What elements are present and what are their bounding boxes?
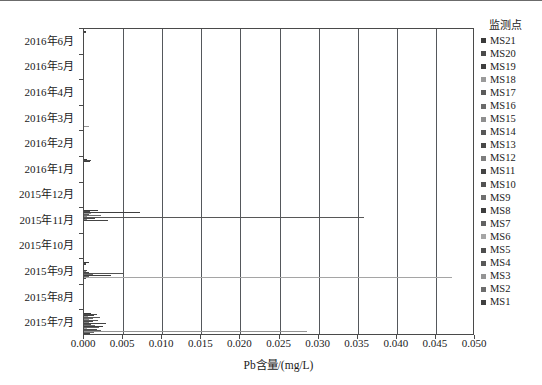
legend-swatch-icon (481, 90, 486, 95)
y-axis-tick-label: 2016年4月 (25, 86, 75, 98)
bar (84, 278, 86, 279)
bar (84, 217, 364, 218)
legend-item-label: MS2 (490, 283, 510, 295)
legend-swatch-icon (481, 261, 486, 266)
legend-swatch-icon (481, 117, 486, 122)
legend-item-label: MS20 (490, 48, 516, 60)
legend-item[interactable]: MS4 (481, 257, 541, 270)
y-axis-tick-label: 2016年5月 (25, 60, 75, 72)
legend-item[interactable]: MS17 (481, 86, 541, 99)
bar (84, 333, 90, 334)
legend-swatch-icon (481, 130, 486, 135)
legend-item-label: MS1 (490, 296, 510, 308)
y-axis-tick-label: 2016年6月 (25, 35, 75, 47)
gridline (201, 29, 202, 334)
y-axis-tick-label: 2016年2月 (25, 137, 75, 149)
gridline (397, 29, 398, 334)
legend-item-label: MS9 (490, 192, 510, 204)
legend-item[interactable]: MS7 (481, 217, 541, 230)
legend-item[interactable]: MS1 (481, 296, 541, 309)
legend-items: MS21MS20MS19MS18MS17MS16MS15MS14MS13MS12… (481, 34, 541, 309)
legend-item-label: MS5 (490, 244, 510, 256)
bar (84, 264, 86, 265)
legend-swatch-icon (481, 38, 486, 43)
bar (84, 220, 108, 221)
y-axis-tick-label: 2015年12月 (19, 188, 74, 200)
y-axis: 2016年6月2016年5月2016年4月2016年3月2016年2月2016年… (0, 28, 79, 335)
x-axis-tick (396, 335, 397, 339)
legend-swatch-icon (481, 248, 486, 253)
gridline (358, 29, 359, 334)
legend-item-label: MS7 (490, 218, 510, 230)
y-axis-tick-label: 2016年1月 (25, 163, 75, 175)
legend-item-label: MS3 (490, 270, 510, 282)
legend-swatch-icon (481, 156, 486, 161)
legend-item[interactable]: MS13 (481, 139, 541, 152)
legend: 监测点 MS21MS20MS19MS18MS17MS16MS15MS14MS13… (481, 19, 541, 309)
legend-item[interactable]: MS10 (481, 178, 541, 191)
legend-item[interactable]: MS12 (481, 152, 541, 165)
legend-item[interactable]: MS19 (481, 60, 541, 73)
legend-title: 监测点 (489, 19, 541, 32)
bar (84, 32, 86, 33)
legend-item[interactable]: MS21 (481, 34, 541, 47)
bar (84, 277, 452, 278)
legend-item[interactable]: MS8 (481, 204, 541, 217)
x-axis-tick (279, 335, 280, 339)
y-axis-tick-label: 2015年9月 (25, 265, 75, 277)
bar (84, 161, 90, 162)
legend-item[interactable]: MS20 (481, 47, 541, 60)
x-axis-tick (357, 335, 358, 339)
legend-item[interactable]: MS2 (481, 283, 541, 296)
y-axis-tick-label: 2016年3月 (25, 112, 75, 124)
legend-item[interactable]: MS9 (481, 191, 541, 204)
legend-swatch-icon (481, 77, 486, 82)
x-axis-tick (318, 335, 319, 339)
x-axis-tick (200, 335, 201, 339)
legend-item[interactable]: MS16 (481, 99, 541, 112)
legend-item-label: MS12 (490, 152, 516, 164)
legend-item[interactable]: MS14 (481, 126, 541, 139)
bar (84, 212, 140, 213)
chart-figure: 2016年6月2016年5月2016年4月2016年3月2016年2月2016年… (0, 0, 542, 385)
gridline (280, 29, 281, 334)
legend-swatch-icon (481, 195, 486, 200)
gridline (319, 29, 320, 334)
legend-item[interactable]: MS11 (481, 165, 541, 178)
legend-swatch-icon (481, 143, 486, 148)
legend-item[interactable]: MS3 (481, 270, 541, 283)
legend-item-label: MS14 (490, 126, 516, 138)
legend-swatch-icon (481, 104, 486, 109)
legend-item[interactable]: MS5 (481, 244, 541, 257)
y-axis-tick-label: 2015年11月 (19, 214, 74, 226)
bar (84, 331, 307, 332)
legend-item-label: MS19 (490, 61, 516, 73)
gridline (436, 29, 437, 334)
legend-item-label: MS21 (490, 35, 516, 47)
legend-item-label: MS17 (490, 87, 516, 99)
y-axis-tick-label: 2015年10月 (19, 239, 74, 251)
legend-item-label: MS8 (490, 205, 510, 217)
legend-swatch-icon (481, 287, 486, 292)
gridline (123, 29, 124, 334)
legend-swatch-icon (481, 221, 486, 226)
legend-swatch-icon (481, 300, 486, 305)
legend-item-label: MS4 (490, 257, 510, 269)
legend-swatch-icon (481, 51, 486, 56)
legend-item-label: MS13 (490, 139, 516, 151)
legend-item-label: MS10 (490, 179, 516, 191)
legend-swatch-icon (481, 64, 486, 69)
legend-item[interactable]: MS18 (481, 73, 541, 86)
y-axis-tick-label: 2015年8月 (25, 291, 75, 303)
x-axis-tick (122, 335, 123, 339)
legend-swatch-icon (481, 169, 486, 174)
legend-item-label: MS11 (490, 165, 515, 177)
legend-item[interactable]: MS15 (481, 113, 541, 126)
legend-item[interactable]: MS6 (481, 230, 541, 243)
x-axis: 0.0000.0050.0100.0150.0200.0250.0300.035… (83, 337, 474, 353)
x-axis-tick (161, 335, 162, 339)
gridline (162, 29, 163, 334)
legend-item-label: MS16 (490, 100, 516, 112)
plot-area (83, 28, 474, 335)
legend-item-label: MS15 (490, 113, 516, 125)
